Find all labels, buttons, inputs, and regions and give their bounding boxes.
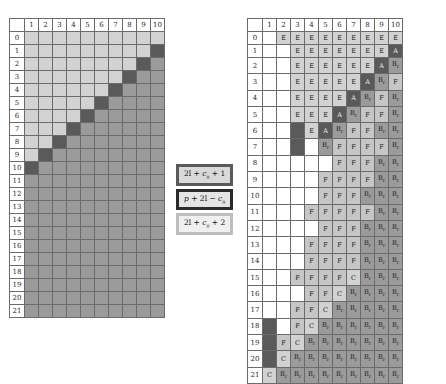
right-matrix-cell	[277, 188, 290, 203]
left-matrix-cell	[25, 279, 38, 291]
left-matrix-cell	[53, 32, 66, 44]
left-matrix-cell	[25, 45, 38, 57]
left-matrix-cell	[123, 136, 136, 148]
right-matrix-cell: E	[319, 91, 332, 106]
left-col-header: 10	[151, 19, 164, 31]
left-matrix-cell	[137, 266, 150, 278]
right-row-header: 19	[248, 335, 262, 350]
left-matrix-cell	[109, 136, 122, 148]
left-matrix-cell	[123, 201, 136, 213]
right-matrix-cell: F	[361, 123, 374, 138]
left-matrix-cell	[53, 188, 66, 200]
left-matrix-cell	[53, 266, 66, 278]
right-col-header: 7	[347, 19, 360, 31]
right-matrix-cell: F	[319, 254, 332, 269]
left-matrix-cell	[39, 227, 52, 239]
right-matrix-cell	[263, 205, 276, 220]
left-matrix-cell	[95, 58, 108, 70]
right-matrix-cell: F	[319, 221, 332, 236]
right-corner-cell	[248, 19, 262, 31]
left-matrix-cell	[137, 136, 150, 148]
left-col-header: 6	[95, 19, 108, 31]
right-matrix-cell: Br	[305, 335, 318, 350]
left-matrix-cell	[137, 32, 150, 44]
left-matrix-cell	[109, 279, 122, 291]
right-matrix-cell: Br	[361, 368, 374, 383]
right-row-header: 13	[248, 237, 262, 252]
left-matrix-cell	[25, 201, 38, 213]
right-matrix-cell: E	[347, 32, 360, 44]
left-matrix-cell	[151, 175, 164, 187]
right-matrix-cell: C	[333, 286, 346, 301]
right-row-header: 21	[248, 368, 262, 383]
right-matrix-cell	[263, 351, 276, 366]
left-matrix-cell	[67, 149, 80, 161]
right-matrix-cell	[263, 302, 276, 317]
right-matrix-row: 1EEEEEEEA	[248, 45, 402, 57]
right-matrix-cell: Br	[389, 302, 402, 317]
right-matrix-cell: F	[361, 172, 374, 187]
right-matrix-cell: E	[291, 91, 304, 106]
right-row-header: 1	[248, 45, 262, 57]
left-matrix-cell	[109, 266, 122, 278]
right-matrix-cell	[263, 221, 276, 236]
left-matrix-row: 12	[10, 188, 164, 200]
right-matrix-cell: A	[361, 74, 374, 89]
right-matrix-row: 5EEEABrFFBr	[248, 107, 402, 122]
right-matrix-row: 2EEEEEEABr	[248, 58, 402, 73]
left-matrix-cell	[123, 162, 136, 174]
left-matrix-cell	[67, 279, 80, 291]
right-matrix-cell: E	[361, 45, 374, 57]
right-matrix-row: 3EEEEEABrF	[248, 74, 402, 89]
right-row-header: 17	[248, 302, 262, 317]
left-matrix-row: 15	[10, 227, 164, 239]
right-matrix-cell: E	[347, 74, 360, 89]
right-matrix-cell: F	[375, 139, 388, 154]
left-matrix-cell	[123, 175, 136, 187]
right-matrix-cell	[291, 139, 304, 154]
right-matrix-cell: F	[347, 188, 360, 203]
left-matrix-cell	[109, 292, 122, 304]
right-matrix-cell: F	[333, 188, 346, 203]
right-matrix-cell: Br	[389, 237, 402, 252]
right-matrix-cell	[263, 286, 276, 301]
left-matrix-row: 0	[10, 32, 164, 44]
right-matrix-cell: F	[361, 156, 374, 171]
right-matrix-cell: Br	[361, 254, 374, 269]
right-matrix-cell: F	[361, 139, 374, 154]
right-matrix-cell: F	[305, 205, 318, 220]
right-matrix-cell	[277, 91, 290, 106]
right-matrix-cell: F	[389, 74, 402, 89]
left-matrix-cell	[81, 97, 94, 109]
right-matrix-cell: F	[319, 205, 332, 220]
right-row-header: 16	[248, 286, 262, 301]
left-matrix-cell	[67, 188, 80, 200]
right-col-header: 10	[389, 19, 402, 31]
left-row-header: 8	[10, 136, 24, 148]
left-matrix-cell	[67, 84, 80, 96]
left-matrix-row: 13	[10, 201, 164, 213]
right-matrix-cell: Br	[389, 172, 402, 187]
right-matrix-cell: F	[305, 302, 318, 317]
right-matrix-cell: Br	[361, 302, 374, 317]
right-matrix-cell	[263, 254, 276, 269]
right-matrix-cell	[277, 221, 290, 236]
right-col-header: 8	[361, 19, 374, 31]
left-matrix-cell	[95, 279, 108, 291]
right-matrix-cell: Br	[291, 351, 304, 366]
right-row-header: 6	[248, 123, 262, 138]
right-matrix-cell: E	[305, 74, 318, 89]
right-matrix-cell: E	[305, 107, 318, 122]
left-row-header: 19	[10, 279, 24, 291]
right-matrix-cell	[305, 172, 318, 187]
right-matrix-cell	[277, 254, 290, 269]
left-matrix-cell	[151, 136, 164, 148]
left-matrix-cell	[81, 201, 94, 213]
right-matrix-cell	[277, 205, 290, 220]
right-matrix-cell	[291, 254, 304, 269]
left-matrix-cell	[53, 97, 66, 109]
right-matrix-cell: Br	[291, 368, 304, 383]
left-matrix-cell	[95, 240, 108, 252]
left-row-header: 0	[10, 32, 24, 44]
left-matrix-cell	[109, 58, 122, 70]
